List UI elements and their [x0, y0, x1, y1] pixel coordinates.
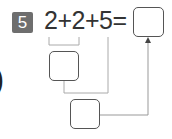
- connector-box2-to-answer: [99, 42, 148, 115]
- arrow-head-icon: [145, 37, 151, 43]
- intermediate-box-2[interactable]: [70, 99, 100, 129]
- intermediate-box-1[interactable]: [49, 51, 79, 81]
- answer-box[interactable]: [133, 7, 164, 37]
- bracket-first-sum: [49, 37, 79, 45]
